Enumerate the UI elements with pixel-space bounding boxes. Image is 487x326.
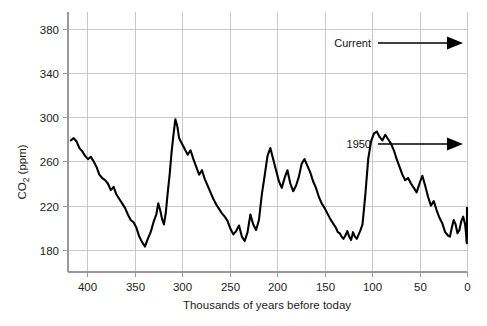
x-tick-label-100: 100 (363, 281, 382, 293)
x-tick-label-400: 400 (78, 281, 97, 293)
x-axis-title: Thousands of years before today (183, 299, 351, 311)
x-tick-label-350: 350 (126, 281, 145, 293)
x-tick-label-250: 250 (221, 281, 240, 293)
y-axis-title-unit: (ppm) (16, 144, 28, 177)
y-tick-label-300: 300 (40, 112, 59, 124)
x-tick-label-0: 0 (464, 281, 470, 293)
annotation-1950-label: 1950 (347, 138, 371, 150)
co2-ice-core-line-chart: 180220260300340380 400350300250200150100… (0, 0, 487, 326)
y-tick-label-260: 260 (40, 156, 59, 168)
y-axis-title-base: CO (16, 182, 28, 199)
x-tick-label-50: 50 (414, 281, 427, 293)
y-tick-label-180: 180 (40, 245, 59, 257)
chart-background (0, 0, 487, 326)
y-tick-label-220: 220 (40, 201, 59, 213)
x-tick-label-300: 300 (173, 281, 192, 293)
chart-figure: 180220260300340380 400350300250200150100… (0, 0, 487, 326)
y-tick-label-340: 340 (40, 68, 59, 80)
annotation-current-label: Current (334, 37, 371, 49)
y-tick-label-380: 380 (40, 24, 59, 36)
x-tick-label-150: 150 (316, 281, 335, 293)
x-tick-label-200: 200 (268, 281, 287, 293)
